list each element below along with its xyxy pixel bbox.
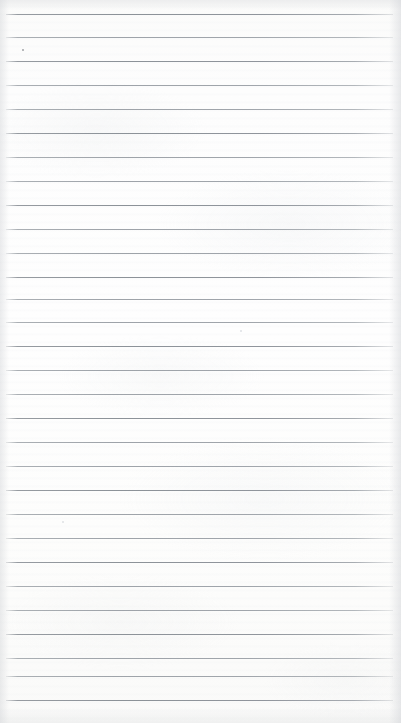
rule-line-29 — [6, 676, 393, 677]
rule-line-10 — [6, 229, 393, 230]
rule-line-28 — [6, 658, 393, 659]
rule-line-2 — [6, 37, 393, 38]
rule-line-22 — [6, 514, 393, 515]
rule-line-14 — [6, 322, 393, 323]
rule-line-26 — [6, 610, 393, 611]
rule-line-4 — [6, 85, 393, 86]
rule-line-19 — [6, 442, 393, 443]
rule-line-5 — [6, 109, 393, 110]
rule-line-11 — [6, 253, 393, 254]
rule-line-15 — [6, 346, 393, 347]
rule-line-6 — [6, 133, 393, 134]
rule-line-24 — [6, 562, 393, 563]
ruled-paper-image — [0, 0, 401, 723]
rule-line-9 — [6, 205, 393, 206]
rule-line-17 — [6, 394, 393, 395]
rule-line-25 — [6, 586, 393, 587]
rule-line-16 — [6, 370, 393, 371]
rule-line-18 — [6, 418, 393, 419]
rule-line-21 — [6, 490, 393, 491]
rule-line-1 — [6, 14, 393, 15]
rule-line-30 — [6, 700, 393, 701]
rule-line-8 — [6, 181, 393, 182]
rule-line-13 — [6, 299, 393, 300]
rule-line-27 — [6, 634, 393, 635]
rule-line-12 — [6, 277, 393, 278]
rule-line-23 — [6, 538, 393, 539]
rule-line-3 — [6, 61, 393, 62]
ruled-lines-group — [0, 0, 401, 723]
rule-line-7 — [6, 157, 393, 158]
rule-line-20 — [6, 466, 393, 467]
